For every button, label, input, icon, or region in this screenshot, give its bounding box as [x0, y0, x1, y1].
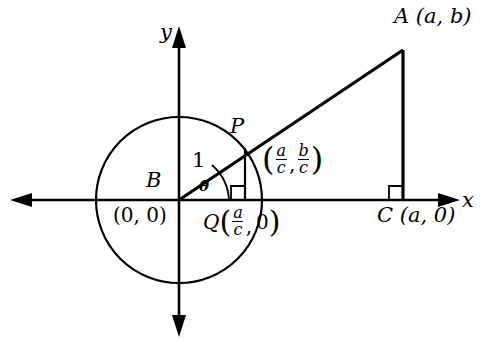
- fraction-b-over-c: b c: [297, 143, 309, 177]
- angle-theta-arc: [212, 165, 229, 200]
- right-angle-marker-c: [389, 186, 403, 200]
- fraction-numerator-a: a: [275, 143, 287, 159]
- point-b-label: B: [146, 170, 161, 191]
- point-p-coords-label: ( a c , b c ): [262, 143, 323, 177]
- paren-open-q: (: [219, 209, 231, 235]
- origin-coords-label: (0, 0): [113, 205, 167, 225]
- fraction-numerator-b: b: [297, 143, 309, 159]
- fraction-denominator-c2: c: [298, 159, 309, 176]
- fraction-numerator-a-q: a: [232, 205, 244, 221]
- point-q-coords-label: Q ( a c , 0 ): [203, 205, 280, 239]
- y-axis: [172, 26, 186, 337]
- radius-length-label: 1: [192, 150, 205, 171]
- paren-close-p: ): [311, 146, 323, 173]
- point-p-label: P: [230, 116, 244, 137]
- y-axis-bottom-arrowhead: [172, 315, 186, 337]
- x-axis-left-arrowhead: [10, 193, 32, 207]
- point-c-label: C (a, 0): [377, 205, 455, 226]
- angle-theta-label: θ: [199, 179, 209, 194]
- y-axis-top-arrowhead: [172, 26, 186, 48]
- comma-p: ,: [288, 152, 296, 176]
- fraction-a-over-c: a c: [275, 143, 287, 177]
- comma-q: ,: [245, 214, 253, 238]
- q-y-value: 0: [253, 210, 269, 234]
- paren-close-q: ): [269, 209, 281, 235]
- geometry-diagram: [0, 0, 483, 343]
- x-axis-label: x: [462, 190, 474, 211]
- point-a-label: A (a, b): [394, 6, 472, 27]
- fraction-denominator-c: c: [276, 159, 287, 176]
- fraction-denominator-c-q: c: [232, 221, 243, 238]
- right-angle-marker-q: [231, 186, 245, 200]
- paren-open-p: (: [262, 146, 274, 173]
- fraction-a-over-c-q: a c: [232, 205, 244, 239]
- point-q-letter: Q: [203, 210, 219, 234]
- y-axis-label: y: [160, 22, 172, 43]
